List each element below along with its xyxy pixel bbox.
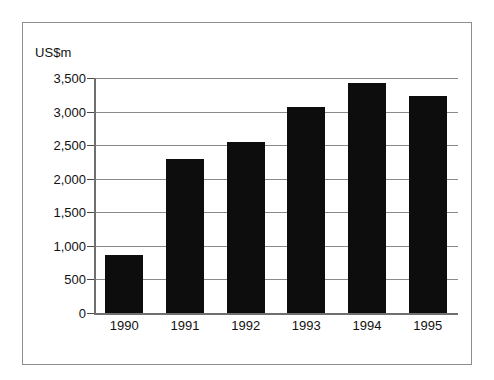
bar-chart-figure: US$m 05001,0001,5002,0002,5003,0003,500 … xyxy=(0,0,494,380)
y-axis-tick-mark xyxy=(87,179,94,180)
y-axis-tick-mark xyxy=(87,313,94,314)
bar-1994 xyxy=(348,83,386,313)
y-axis-tick-mark xyxy=(87,78,94,79)
bar-1990 xyxy=(105,255,143,313)
y-axis-tick-label: 1,500 xyxy=(53,205,86,220)
y-axis-tick-label-column: 05001,0001,5002,0002,5003,0003,500 xyxy=(24,78,86,313)
x-axis-tick-label: 1991 xyxy=(155,318,215,333)
y-axis-tick-mark xyxy=(87,212,94,213)
y-axis-tick-mark xyxy=(87,279,94,280)
y-axis-tick-label: 2,500 xyxy=(53,138,86,153)
x-axis-tick-label: 1994 xyxy=(337,318,397,333)
y-axis-tick-mark xyxy=(87,112,94,113)
y-axis-tick-label: 3,500 xyxy=(53,71,86,86)
bar-1992 xyxy=(227,142,265,313)
y-axis-tick-label: 1,000 xyxy=(53,238,86,253)
y-axis-unit-label: US$m xyxy=(35,45,72,60)
x-axis-line xyxy=(94,313,458,315)
y-axis-tick-label: 2,000 xyxy=(53,171,86,186)
bars-layer xyxy=(94,78,458,313)
y-axis-tick-label: 0 xyxy=(79,306,86,321)
x-axis-tick-label: 1992 xyxy=(216,318,276,333)
bar-1991 xyxy=(166,159,204,313)
x-axis-tick-label: 1990 xyxy=(94,318,154,333)
x-axis-tick-label: 1993 xyxy=(276,318,336,333)
bar-1995 xyxy=(409,96,447,313)
y-axis-tick-mark xyxy=(87,145,94,146)
y-axis-tick-mark xyxy=(87,246,94,247)
x-axis-tick-label-row: 199019911992199319941995 xyxy=(94,318,458,338)
y-axis-tick-label: 500 xyxy=(64,272,86,287)
x-axis-tick-label: 1995 xyxy=(398,318,458,333)
bar-1993 xyxy=(287,107,325,313)
y-axis-tick-label: 3,000 xyxy=(53,104,86,119)
